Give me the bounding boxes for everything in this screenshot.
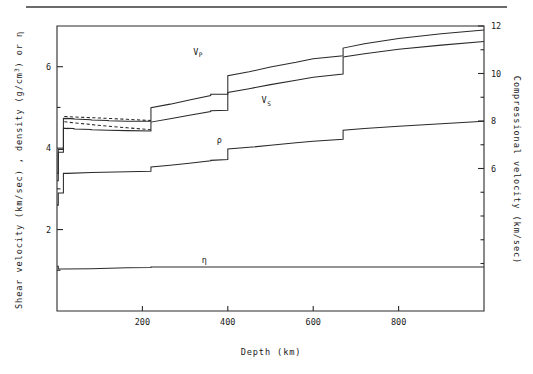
y2-tick-label: 12 <box>491 21 501 31</box>
x-tick-label: 800 <box>391 317 406 327</box>
x-tick-label: 400 <box>220 317 235 327</box>
svg-text:Compressional velocity (km/sec: Compressional velocity (km/sec) <box>512 76 522 264</box>
y-tick-label: 6 <box>46 62 51 72</box>
y2-tick-label: 8 <box>491 116 496 126</box>
vs-label-subscript: S <box>267 100 271 107</box>
y-tick-label: 4 <box>46 143 51 153</box>
x-tick-label: 200 <box>135 317 150 327</box>
y-tick-label: 2 <box>46 225 51 235</box>
rho-label: ρ <box>217 135 222 145</box>
y2-tick-label: 10 <box>491 69 501 79</box>
rho-label-text: ρ <box>217 135 222 145</box>
figure-background <box>0 0 533 374</box>
vp-label-subscript: P <box>199 51 203 58</box>
y2-axis-title: Compressional velocity (km/sec) <box>512 76 522 264</box>
x-tick-label: 600 <box>306 317 321 327</box>
svg-text:Shear velocity (km/sec) , dens: Shear velocity (km/sec) , density (g/cm3… <box>13 31 24 309</box>
y-axis-title: Shear velocity (km/sec) , density (g/cm3… <box>13 31 24 309</box>
x-axis-title: Depth (km) <box>241 347 302 357</box>
eta-label: η <box>202 255 207 265</box>
y2-tick-label: 6 <box>491 164 496 174</box>
seismic-velocity-model-figure: 200400600800246681012 VPVSρη Depth (km) … <box>0 0 533 374</box>
eta-label-text: η <box>202 255 207 265</box>
